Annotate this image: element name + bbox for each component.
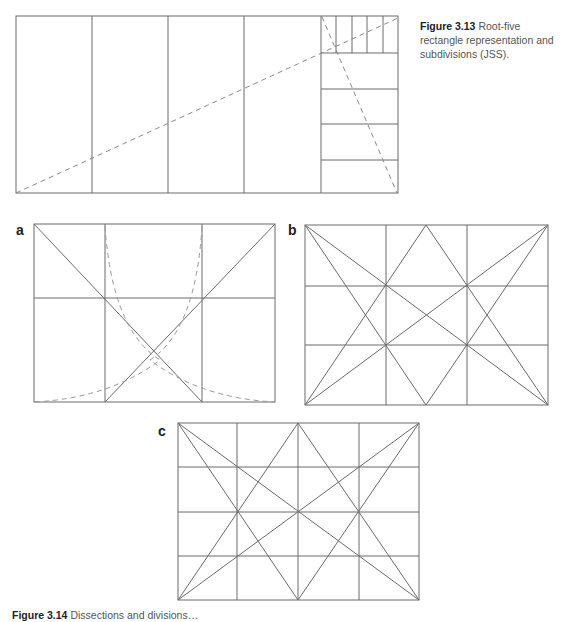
- panel-a-diagram: [34, 224, 275, 402]
- figure-number: Figure 3.13: [420, 20, 475, 32]
- panel-label-a: a: [16, 222, 24, 238]
- figure-number: Figure 3.14: [12, 609, 67, 621]
- figure-3-13-caption: Figure 3.13 Root-five rectangle represen…: [420, 19, 565, 61]
- root-five-rectangle: [16, 16, 398, 193]
- panel-b-diagram: [305, 225, 548, 405]
- panel-label-b: b: [288, 222, 297, 238]
- figure-3-14-caption: Figure 3.14 Dissections and divisions…: [12, 608, 552, 622]
- panel-label-c: c: [158, 423, 166, 439]
- panel-c-diagram: [178, 423, 419, 600]
- figure-caption-text: Dissections and divisions…: [70, 609, 198, 621]
